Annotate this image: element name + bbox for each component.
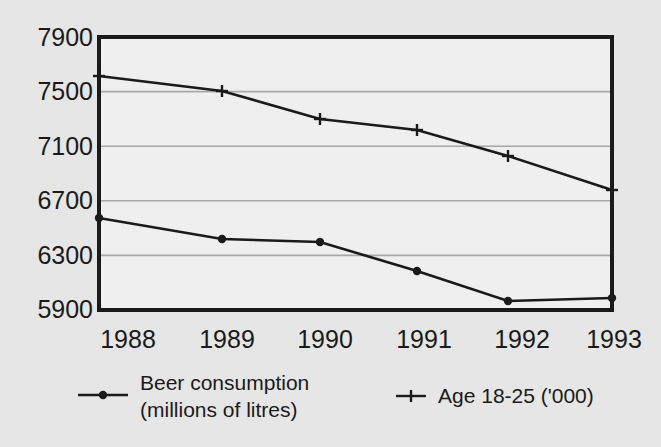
line-dot-marker-icon	[78, 391, 128, 399]
legend-label-age-line1: Age 18-25 ('000)	[438, 384, 594, 407]
marker-dot-1992	[504, 297, 512, 305]
x-axis-tick-labels: 1988 1989 1990 1991 1992 1993	[100, 325, 642, 353]
x-tick-label-1992: 1992	[494, 325, 550, 353]
x-tick-label-1988: 1988	[100, 325, 156, 353]
y-axis-tick-labels: 7900 7500 7100 6700 6300 5900	[37, 23, 93, 323]
y-tick-label-6700: 6700	[37, 186, 93, 214]
y-tick-label-5900: 5900	[37, 295, 93, 323]
marker-dot-1988	[95, 214, 103, 222]
legend-label-beer-line1: Beer consumption	[140, 371, 309, 394]
x-tick-label-1991: 1991	[396, 325, 452, 353]
chart-legend: Beer consumption (millions of litres) Ag…	[78, 371, 594, 421]
chart-figure: 7900 7500 7100 6700 6300 5900 1988 1989 …	[0, 0, 661, 447]
y-tick-label-6300: 6300	[37, 241, 93, 269]
line-chart: 7900 7500 7100 6700 6300 5900 1988 1989 …	[0, 0, 661, 447]
legend-label-beer-line2: (millions of litres)	[140, 398, 298, 421]
x-tick-label-1993: 1993	[586, 325, 642, 353]
legend-entry-age-18-25: Age 18-25 ('000)	[396, 384, 594, 407]
plot-area-background	[99, 37, 612, 310]
marker-dot-1990	[316, 238, 324, 246]
marker-dot-1989	[218, 235, 226, 243]
legend-entry-beer-consumption: Beer consumption (millions of litres)	[78, 371, 309, 421]
marker-dot-1993	[608, 294, 616, 302]
y-tick-label-7100: 7100	[37, 132, 93, 160]
x-tick-label-1989: 1989	[199, 325, 255, 353]
y-tick-label-7500: 7500	[37, 77, 93, 105]
line-plus-marker-icon	[396, 390, 426, 402]
y-tick-label-7900: 7900	[37, 23, 93, 51]
marker-dot-1991	[413, 267, 421, 275]
x-tick-label-1990: 1990	[297, 325, 353, 353]
